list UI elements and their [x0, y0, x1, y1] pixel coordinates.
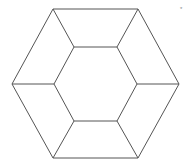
- inner-hexagon: [54, 47, 137, 121]
- connector-bottom-left: [53, 121, 74, 158]
- connector-top-left: [53, 9, 74, 47]
- connector-top-right: [117, 9, 138, 47]
- connector-bottom-right: [117, 121, 138, 158]
- corner-mark: *: [180, 6, 183, 12]
- hexagon-diagram: *: [0, 0, 190, 167]
